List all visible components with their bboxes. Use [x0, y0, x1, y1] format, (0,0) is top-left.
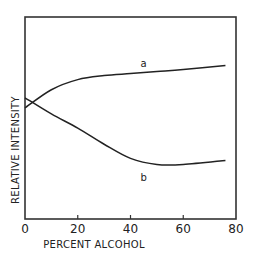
x-axis-tick-labels: 020406080 [21, 222, 243, 236]
curve-labels: ab [141, 58, 147, 182]
curve-b [25, 98, 225, 165]
plot-frame [25, 17, 236, 219]
x-tick-label: 0 [21, 222, 29, 236]
x-tick-label: 60 [176, 222, 191, 236]
curve-label-b: b [141, 172, 147, 183]
y-axis-title: RELATIVE INTENSITY [10, 96, 21, 204]
curves [25, 65, 225, 165]
curve-label-a: a [141, 58, 147, 69]
x-tick-label: 80 [228, 222, 243, 236]
x-axis-title: PERCENT ALCOHOL [43, 239, 145, 250]
x-tick-label: 40 [123, 222, 138, 236]
chart: 020406080 ab PERCENT ALCOHOL RELATIVE IN… [0, 0, 255, 257]
curve-a [25, 65, 225, 107]
x-tick-label: 20 [70, 222, 85, 236]
